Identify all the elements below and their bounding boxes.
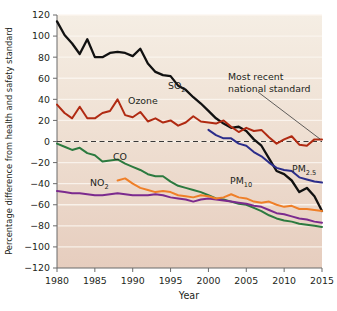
x-tick-label: 2005 [234, 275, 258, 286]
y-tick-label: −120 [24, 262, 50, 273]
x-tick-label: 1990 [121, 275, 145, 286]
x-tick-label: 2015 [310, 275, 334, 286]
y-tick-label: −60 [30, 199, 50, 210]
annotation-line-1: Most recent [228, 71, 284, 82]
x-axis-title: Year [178, 290, 199, 301]
y-tick-label: 0 [44, 136, 50, 147]
y-tick-label: 40 [38, 94, 50, 105]
x-tick-label: 2010 [272, 275, 296, 286]
y-tick-label: 20 [38, 115, 50, 126]
chart-figure: 120100806040200−20−40−60−80−100−120 1980… [0, 0, 337, 311]
y-tick-label: −100 [24, 241, 50, 252]
y-tick-label: 60 [38, 73, 50, 84]
y-axis-title: Percentage difference from health and sa… [4, 27, 14, 255]
y-tick-label: 100 [32, 30, 50, 41]
x-tick-label: 1985 [83, 275, 107, 286]
annotation-line-2: national standard [228, 83, 311, 94]
y-tick-label: −20 [30, 157, 50, 168]
air-quality-trend-chart: 120100806040200−20−40−60−80−100−120 1980… [0, 0, 337, 311]
y-tick-label: −80 [30, 220, 50, 231]
y-tick-label: 80 [38, 52, 50, 63]
x-tick-label: 2000 [196, 275, 220, 286]
x-tick-label: 1995 [159, 275, 183, 286]
series-label-ozone: Ozone [128, 95, 158, 106]
y-tick-label: 120 [32, 9, 50, 20]
series-label-co: CO [113, 151, 127, 162]
y-tick-label: −40 [30, 178, 50, 189]
x-tick-label: 1980 [45, 275, 69, 286]
